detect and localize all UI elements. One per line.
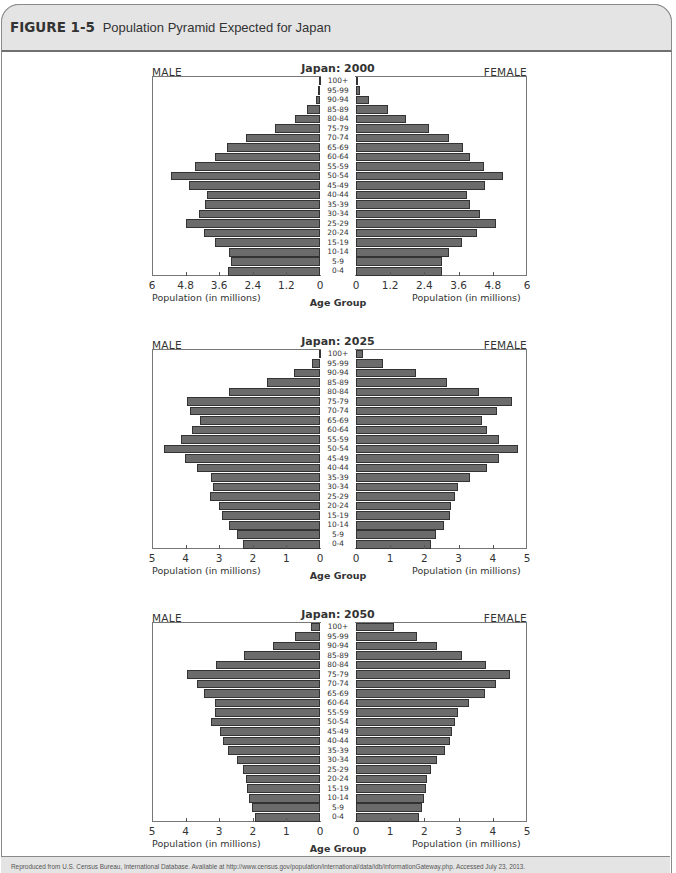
age-group-label: 10-14 [321, 793, 355, 803]
age-group-label: 25-29 [321, 219, 355, 229]
male-bar [275, 124, 320, 133]
x-tick-label-male: 0 [305, 825, 335, 837]
x-tick-label-male: 5 [137, 825, 167, 837]
x-tick-label-male: 2 [238, 552, 268, 564]
male-bar [294, 369, 320, 378]
male-bar [219, 502, 320, 511]
male-bar [215, 153, 320, 162]
male-bar [171, 172, 320, 181]
male-bar [211, 473, 320, 482]
x-tick-label-male: 3.6 [204, 279, 234, 291]
x-tick-label-male: 1.2 [271, 279, 301, 291]
female-bar [356, 632, 417, 641]
female-bar [356, 105, 388, 114]
female-bar [356, 483, 458, 492]
female-bar [356, 124, 429, 133]
female-bar [356, 407, 497, 416]
female-bar [356, 238, 462, 247]
age-group-label: 80-84 [321, 660, 355, 670]
male-bar [207, 191, 320, 200]
male-bar [227, 143, 320, 152]
female-bar [356, 267, 442, 276]
age-group-label: 70-74 [321, 406, 355, 416]
x-tick [390, 818, 391, 822]
age-group-axis-label: Age Group [288, 570, 388, 581]
age-group-label: 100+ [321, 76, 355, 86]
male-bar [205, 200, 320, 209]
male-bar [181, 435, 320, 444]
male-x-axis-label: Population (in millions) [152, 838, 261, 849]
female-bar [356, 511, 450, 520]
male-bar [229, 388, 320, 397]
female-bar [356, 718, 455, 727]
female-bar [356, 775, 427, 784]
male-bar [164, 445, 320, 454]
age-group-label: 45-49 [321, 727, 355, 737]
x-tick-label-male: 4.8 [171, 279, 201, 291]
x-tick [459, 545, 460, 549]
male-bar [267, 378, 320, 387]
age-group-label: 100+ [321, 349, 355, 359]
age-group-label: 65-69 [321, 416, 355, 426]
male-bar [228, 746, 320, 755]
x-tick [253, 818, 254, 822]
age-group-label: 5-9 [321, 257, 355, 267]
female-bar [356, 388, 479, 397]
x-tick-label-male: 1 [271, 552, 301, 564]
x-tick-label-male: 0 [305, 552, 335, 564]
male-bar [190, 407, 320, 416]
age-group-label: 90-94 [321, 95, 355, 105]
age-group-label: 20-24 [321, 501, 355, 511]
x-tick [186, 272, 187, 276]
x-tick-label-female: 3 [444, 825, 474, 837]
chart-title: Japan: 2025 [0, 335, 676, 348]
male-bar [204, 229, 320, 238]
female-bar [356, 229, 477, 238]
male-bar [246, 775, 320, 784]
figure-title: Population Pyramid Expected for Japan [103, 20, 331, 35]
x-tick-label-female: 3.6 [444, 279, 474, 291]
female-bar [356, 96, 369, 105]
x-tick [286, 818, 287, 822]
male-bar [312, 359, 320, 368]
x-tick-label-male: 2.4 [238, 279, 268, 291]
male-bar [243, 765, 320, 774]
female-bar [356, 181, 485, 190]
male-bar [220, 727, 320, 736]
x-tick-label-female: 5 [512, 825, 542, 837]
figure-label: FIGURE 1-5 [10, 19, 95, 35]
x-tick [186, 545, 187, 549]
female-bar [356, 803, 422, 812]
female-bar [356, 661, 486, 670]
age-group-label: 60-64 [321, 425, 355, 435]
x-tick [253, 272, 254, 276]
female-bar [356, 86, 360, 95]
x-tick [424, 545, 425, 549]
age-group-label: 75-79 [321, 397, 355, 407]
female-bar [356, 492, 455, 501]
source-note: Reproduced from U.S. Census Bureau, Inte… [11, 863, 525, 870]
age-group-label: 25-29 [321, 492, 355, 502]
age-group-label: 30-34 [321, 482, 355, 492]
age-group-label: 35-39 [321, 473, 355, 483]
female-bar [356, 756, 437, 765]
female-bar [356, 219, 496, 228]
x-tick-label-female: 4 [478, 552, 508, 564]
age-group-axis-label: Age Group [288, 297, 388, 308]
female-bar [356, 642, 437, 651]
female-bar [356, 426, 487, 435]
female-bar [356, 464, 487, 473]
female-bar [356, 350, 363, 359]
male-bar [199, 210, 320, 219]
male-bar [210, 492, 320, 501]
age-group-label: 75-79 [321, 670, 355, 680]
male-bar [255, 813, 320, 822]
age-group-label: 95-99 [321, 359, 355, 369]
x-tick [219, 818, 220, 822]
x-tick [459, 272, 460, 276]
x-tick-label-female: 3 [444, 552, 474, 564]
age-group-label: 40-44 [321, 736, 355, 746]
x-tick [390, 272, 391, 276]
male-x-axis-label: Population (in millions) [152, 565, 261, 576]
male-bar [231, 257, 320, 266]
